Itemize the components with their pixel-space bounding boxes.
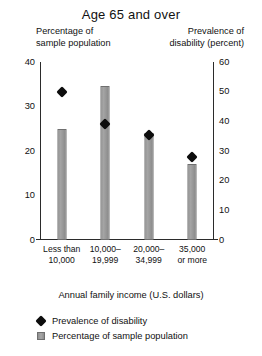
right-axis-label-line-1: Prevalence of xyxy=(169,26,244,38)
chart-legend: Prevalence of disability Percentage of s… xyxy=(37,313,188,343)
x-axis-title: Annual family income (U.S. dollars) xyxy=(0,290,262,300)
legend-item-percentage: Percentage of sample population xyxy=(37,328,188,343)
axis-tick-label: 10 xyxy=(219,206,229,215)
legend-item-prevalence: Prevalence of disability xyxy=(37,313,188,328)
category-label: 35,000or more xyxy=(164,244,220,266)
left-axis-label: Percentage of sample population xyxy=(36,26,111,49)
chart-figure: Age 65 and over Percentage of sample pop… xyxy=(0,0,262,356)
axis-tick-label: 40 xyxy=(219,117,229,126)
plot-area: 010203040 0102030405060 xyxy=(40,62,214,240)
diamond-marker-icon xyxy=(35,315,46,326)
x-axis-category-labels: Less than10,00010,000–19,99920,000–34,99… xyxy=(40,244,214,278)
left-axis-label-line-2: sample population xyxy=(36,38,111,50)
legend-label: Percentage of sample population xyxy=(52,331,188,341)
right-axis-label-line-2: disability (percent) xyxy=(169,38,244,50)
axis-tick-label: 30 xyxy=(25,102,35,111)
chart-group xyxy=(40,62,84,240)
axis-tick-label: 20 xyxy=(219,176,229,185)
axis-tick-label: 50 xyxy=(219,87,229,96)
category-label-line: or more xyxy=(164,255,220,266)
series-layer xyxy=(40,62,214,240)
axis-tick-label: 20 xyxy=(25,147,35,156)
bar-swatch-icon xyxy=(37,332,45,340)
chart-group xyxy=(127,62,171,240)
bar-percentage-of-sample-population xyxy=(144,133,153,240)
right-axis-label: Prevalence of disability (percent) xyxy=(169,26,244,49)
marker-prevalence-of-disability xyxy=(56,86,67,97)
chart-group xyxy=(84,62,128,240)
bar-percentage-of-sample-population xyxy=(188,164,197,240)
left-axis-label-line-1: Percentage of xyxy=(36,26,111,38)
category-label-line: 35,000 xyxy=(164,244,220,255)
axis-tick-label: 30 xyxy=(219,147,229,156)
chart-group xyxy=(171,62,215,240)
chart-title: Age 65 and over xyxy=(0,7,262,22)
bar-percentage-of-sample-population xyxy=(101,86,110,240)
axis-tick-label: 60 xyxy=(219,58,229,67)
axis-tick-label: 40 xyxy=(25,58,35,67)
legend-label: Prevalence of disability xyxy=(52,316,147,326)
marker-prevalence-of-disability xyxy=(187,151,198,162)
axis-tick-label: 10 xyxy=(25,191,35,200)
bar-percentage-of-sample-population xyxy=(57,129,66,240)
